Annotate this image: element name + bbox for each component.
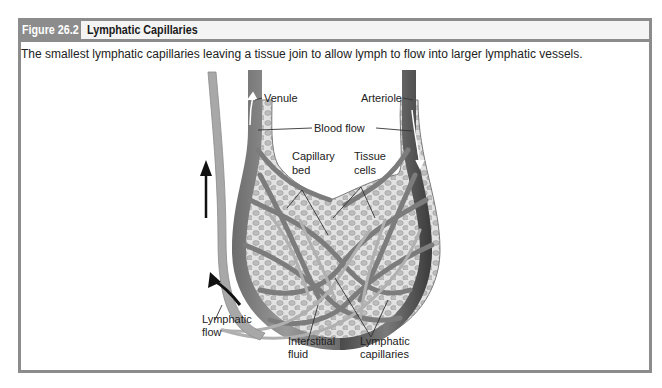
lymphatic-capillaries-illustration: Venule Arteriole Blood flow Capillary be…: [0, 0, 662, 388]
label-venule: Venule: [264, 92, 298, 104]
label-blood-flow: Blood flow: [314, 122, 365, 134]
label-tissue-cells-1: Tissue: [354, 150, 386, 162]
label-lymphatic-capillaries-1: Lymphatic: [360, 335, 410, 347]
label-tissue-cells-2: cells: [354, 164, 377, 176]
label-interstitial-fluid-2: fluid: [288, 348, 308, 360]
label-capillary-bed-2: bed: [292, 164, 310, 176]
label-lymphatic-capillaries-2: capillaries: [360, 348, 409, 360]
label-interstitial-fluid-1: Interstitial: [288, 335, 335, 347]
label-arteriole: Arteriole: [361, 92, 402, 104]
label-capillary-bed-1: Capillary: [292, 150, 335, 162]
label-lymphatic-flow-1: Lymphatic: [202, 313, 252, 325]
label-lymphatic-flow-2: flow: [202, 326, 222, 338]
